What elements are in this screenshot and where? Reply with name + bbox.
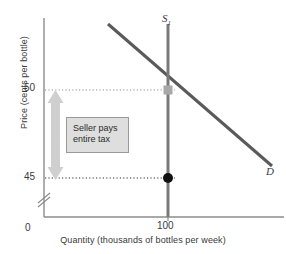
x-axis-title: Quantity (thousands of bottles per week) <box>0 236 286 245</box>
annotation-line-2: entire tax <box>73 134 124 145</box>
tax-incidence-arrow-icon <box>48 90 64 180</box>
demand-curve-label: D <box>266 166 274 177</box>
demand-curve <box>108 24 272 166</box>
supply-demand-chart: Price (cents per bottle) Quantity (thous… <box>0 0 286 254</box>
equilibrium-after-tax-point <box>163 173 173 183</box>
supply-curve-label-subscript: 1 <box>168 19 172 27</box>
equilibrium-before-tax-marker <box>164 86 173 95</box>
chart-canvas <box>0 0 286 254</box>
y-tick-label-50: 50 <box>24 83 35 93</box>
x-tick-label-100: 100 <box>157 221 174 231</box>
annotation-line-1: Seller pays <box>73 123 124 134</box>
supply-curve-label: S1 <box>162 13 171 27</box>
origin-label: 0 <box>25 223 31 233</box>
tax-incidence-annotation-box: Seller pays entire tax <box>66 117 129 153</box>
y-tick-label-45: 45 <box>24 172 35 182</box>
